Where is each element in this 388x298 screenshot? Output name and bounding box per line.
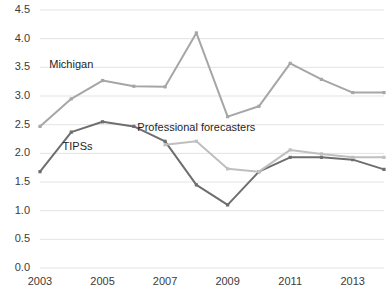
y-axis-tick-label: 0.5: [4, 232, 30, 244]
x-axis-tick-label: 2003: [20, 275, 60, 287]
data-point-marker: [382, 168, 385, 171]
y-axis-tick-label: 1.0: [4, 204, 30, 216]
data-point-marker: [289, 156, 292, 159]
data-point-marker: [70, 97, 73, 100]
y-axis-tick-label: 3.0: [4, 89, 30, 101]
y-axis-tick-label: 0.0: [4, 261, 30, 273]
x-axis-tick-label: 2007: [145, 275, 185, 287]
data-point-marker: [226, 167, 229, 170]
data-point-marker: [38, 125, 41, 128]
y-axis-tick-label: 4.0: [4, 32, 30, 44]
data-point-marker: [382, 156, 385, 159]
series-label-michigan: Michigan: [49, 58, 93, 70]
x-axis-tick-label: 2009: [208, 275, 248, 287]
data-point-marker: [195, 183, 198, 186]
x-axis-tick-label: 2011: [270, 275, 310, 287]
data-point-marker: [163, 140, 166, 143]
inflation-expectations-line-chart: 0.00.51.01.52.02.53.03.54.04.5 200320052…: [0, 0, 388, 298]
y-axis-tick-label: 1.5: [4, 175, 30, 187]
x-axis-tick-label: 2013: [333, 275, 373, 287]
data-point-marker: [226, 203, 229, 206]
data-point-marker: [132, 125, 135, 128]
data-point-marker: [195, 31, 198, 34]
series-label-professional-forecasters: Professional forecasters: [137, 121, 255, 133]
data-point-marker: [320, 78, 323, 81]
y-axis-tick-label: 2.5: [4, 118, 30, 130]
data-point-marker: [70, 131, 73, 134]
data-point-marker: [351, 91, 354, 94]
series-label-tipss: TIPSs: [63, 140, 93, 152]
series-line-tipss: [40, 122, 384, 205]
data-point-marker: [101, 120, 104, 123]
data-point-marker: [320, 156, 323, 159]
data-point-marker: [38, 170, 41, 173]
data-point-marker: [226, 115, 229, 118]
chart-plot-area: [0, 0, 388, 298]
data-point-marker: [382, 91, 385, 94]
data-point-marker: [289, 148, 292, 151]
data-point-marker: [320, 152, 323, 155]
x-axis-tick-label: 2005: [83, 275, 123, 287]
y-axis-tick-label: 4.5: [4, 3, 30, 15]
data-point-marker: [257, 105, 260, 108]
data-point-marker: [132, 85, 135, 88]
data-point-marker: [257, 170, 260, 173]
data-point-marker: [101, 79, 104, 82]
y-axis-tick-label: 2.0: [4, 146, 30, 158]
data-point-marker: [289, 62, 292, 65]
series-line-michigan: [40, 33, 384, 126]
data-point-marker: [351, 156, 354, 159]
data-point-marker: [163, 143, 166, 146]
y-axis-tick-label: 3.5: [4, 60, 30, 72]
data-point-marker: [163, 85, 166, 88]
data-point-marker: [195, 140, 198, 143]
